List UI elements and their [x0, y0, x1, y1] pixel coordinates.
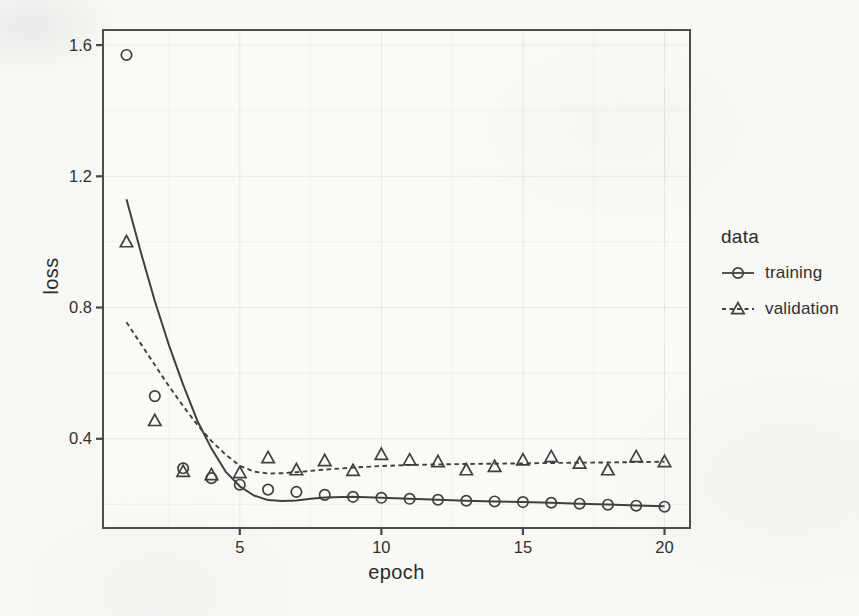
training-key-icon [721, 263, 755, 283]
scanned-page: 51015200.40.81.21.6 loss epoch data trai… [0, 0, 859, 616]
y-axis-title: loss [40, 257, 63, 294]
legend-entry-training: training [721, 261, 839, 285]
x-tick-label: 20 [655, 538, 673, 556]
x-axis-title: epoch [103, 561, 690, 584]
y-tick-label: 0.4 [69, 429, 92, 447]
plot-panel [103, 30, 690, 528]
legend-label-training: training [765, 263, 822, 283]
legend-label-validation: validation [765, 299, 839, 319]
legend-title: data [721, 226, 839, 249]
x-tick-label: 10 [372, 538, 390, 556]
validation-key-icon [721, 299, 755, 319]
y-tick-label: 1.2 [69, 167, 92, 185]
x-tick-label: 15 [514, 538, 532, 556]
x-tick-label: 5 [235, 538, 244, 556]
legend: data training validation [721, 226, 839, 321]
y-tick-label: 0.8 [69, 298, 92, 316]
y-tick-label: 1.6 [69, 36, 92, 54]
legend-entry-validation: validation [721, 297, 839, 321]
